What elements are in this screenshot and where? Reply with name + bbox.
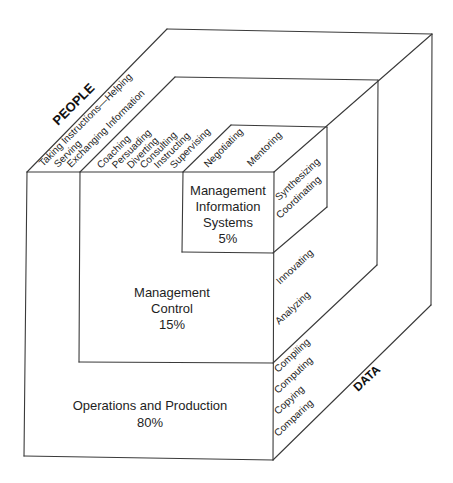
people-function-label: Mentoring: [245, 129, 284, 168]
inner-front-left-edge: [182, 172, 183, 252]
operations-share: 80%: [137, 415, 163, 430]
middle-back-right-edge: [377, 80, 378, 265]
inner-top-back-edge: [231, 125, 327, 127]
middle-front-bottom-edge: [79, 362, 273, 363]
data-functions: Synthesizing Coordinating Innovating Ana…: [272, 156, 323, 439]
outer-top-back-edge: [167, 29, 432, 34]
outer-front-left-edge: [24, 172, 27, 456]
data-function-label: Analyzing: [273, 289, 312, 327]
mis-share: 5%: [219, 231, 238, 246]
control-label-line-2: Control: [151, 301, 193, 316]
mis-label-line-2: Information: [195, 199, 260, 214]
outer-front-bottom-edge: [24, 456, 273, 460]
operations-label-line-1: Operations and Production: [73, 398, 228, 413]
people-functions: Taking Instructions—Helping Serving Exch…: [37, 71, 284, 170]
middle-front-left-edge: [79, 172, 80, 362]
mis-level-label: Management Information Systems 5%: [190, 183, 266, 246]
outer-front-right-edge: [273, 172, 274, 460]
data-function-label: Innovating: [274, 247, 315, 287]
inner-front-bottom-edge: [182, 252, 273, 253]
mis-label-line-1: Management: [190, 183, 266, 198]
data-axis-label: DATA: [350, 362, 383, 394]
control-share: 15%: [159, 317, 185, 332]
outer-top-right-diagonal: [274, 34, 432, 172]
mis-label-line-3: Systems: [203, 215, 253, 230]
control-label-line-1: Management: [134, 285, 210, 300]
middle-top-back-edge: [175, 77, 378, 80]
nested-cube-diagram: PEOPLE Taking Instructions—Helping Servi…: [0, 0, 453, 483]
control-level-label: Management Control 15%: [134, 285, 210, 332]
operations-level-label: Operations and Production 80%: [73, 398, 228, 430]
outer-back-right-edge: [431, 34, 432, 305]
